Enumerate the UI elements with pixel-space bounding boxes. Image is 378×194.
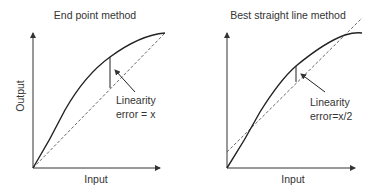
right-arrow (301, 74, 325, 92)
left-xlabel: Input (84, 173, 107, 185)
right-xlabel: Input (281, 173, 304, 185)
right-annotation-1: Linearity (310, 96, 350, 108)
right-annotation-2: error=x/2 (310, 110, 352, 122)
left-panel: End point method Linearity error = x Out… (14, 9, 165, 185)
left-annotation-1: Linearity (116, 94, 156, 106)
right-panel: Best straight line method Linearity erro… (227, 9, 362, 185)
left-title: End point method (54, 9, 136, 21)
left-annotation-2: error = x (116, 108, 156, 120)
right-title: Best straight line method (230, 9, 346, 21)
left-ylabel: Output (14, 80, 26, 112)
linearity-diagram: End point method Linearity error = x Out… (0, 0, 378, 194)
right-best-fit-line (227, 18, 362, 152)
